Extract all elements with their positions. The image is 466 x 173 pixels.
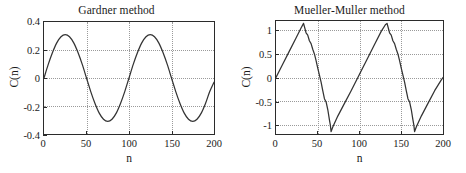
xtick-label-150: 150 [393, 138, 409, 149]
xtick-mark-0 [43, 131, 44, 135]
ytick-mark-1 [275, 30, 279, 31]
ytick-mark--0.5 [275, 102, 279, 103]
chart-title-gardner: Gardner method [0, 4, 233, 16]
xtick-mark-200 [214, 131, 215, 135]
chart-title-mueller-muller: Mueller-Muller method [233, 4, 466, 16]
ytick-mark-0 [275, 78, 279, 79]
ytick-mark--0.2 [43, 107, 47, 108]
xtick-label-200: 200 [206, 138, 222, 149]
x-axis-label-mueller-muller: n [275, 152, 444, 164]
y-axis-label-gardner: C(n) [8, 53, 20, 101]
xtick-mark-200 [443, 131, 444, 135]
ytick-label-1: 1 [241, 24, 272, 35]
plot-area-gardner [43, 21, 215, 135]
y-axis-label-mueller-muller: C(n) [240, 53, 252, 101]
xtick-label-0: 0 [272, 138, 277, 149]
xtick-mark-0 [275, 131, 276, 135]
xtick-mark-150 [401, 131, 402, 135]
xtick-label-100: 100 [351, 138, 367, 149]
ytick-mark-0.5 [275, 54, 279, 55]
ytick-mark--1 [275, 125, 279, 126]
ytick-label--1: -1 [241, 120, 272, 131]
plot-area-mueller-muller [275, 20, 444, 135]
xtick-mark-50 [86, 131, 87, 135]
chart-panel-mueller-muller: Mueller-Muller method 1 0.5 0 -0.5 -1 [233, 0, 466, 173]
chart-panel-gardner: Gardner method 0.4 0.2 0 -0.2 -0.4 [0, 0, 233, 173]
xtick-label-0: 0 [40, 138, 45, 149]
xtick-mark-50 [317, 131, 318, 135]
xtick-label-200: 200 [435, 138, 451, 149]
curve-gardner [44, 22, 214, 134]
xtick-mark-150 [172, 131, 173, 135]
xtick-label-50: 50 [81, 138, 92, 149]
ytick-label--0.2: -0.2 [8, 101, 40, 112]
ytick-mark-0 [43, 78, 47, 79]
xtick-label-100: 100 [121, 138, 137, 149]
x-axis-label-gardner: n [43, 152, 215, 164]
ytick-mark--0.4 [43, 135, 47, 136]
ytick-label-0.4: 0.4 [8, 16, 40, 27]
xtick-label-50: 50 [312, 138, 323, 149]
xtick-label-150: 150 [164, 138, 180, 149]
ytick-label--0.4: -0.4 [8, 130, 40, 141]
xtick-mark-100 [359, 131, 360, 135]
figure-canvas: Gardner method 0.4 0.2 0 -0.2 -0.4 [0, 0, 466, 173]
ytick-mark-0.2 [43, 50, 47, 51]
curve-mueller-muller [276, 21, 443, 134]
xtick-mark-100 [129, 131, 130, 135]
ytick-mark-0.4 [43, 21, 47, 22]
